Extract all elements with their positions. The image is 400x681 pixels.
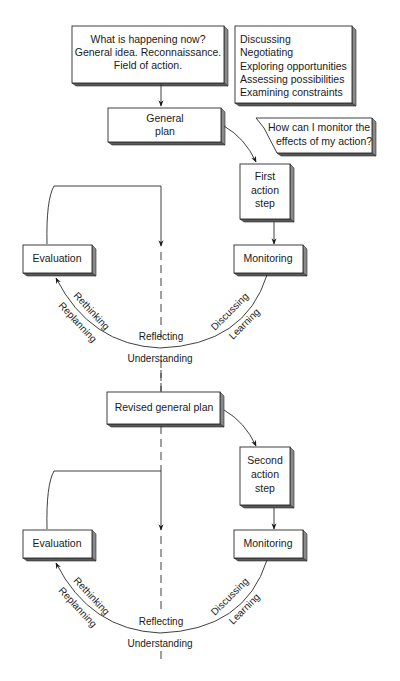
understanding-label-2: Understanding xyxy=(127,638,192,649)
monitoring-1-label: Monitoring xyxy=(243,252,292,264)
question-line-2: effects of my action? xyxy=(276,135,372,147)
arrow-plan-to-action-1 xyxy=(224,126,256,162)
activity-3: Exploring opportunities xyxy=(240,60,347,72)
first-action-line-2: action xyxy=(251,184,279,196)
intro-line-3: Field of action. xyxy=(114,59,182,71)
reflecting-label-1: Reflecting xyxy=(139,331,183,342)
general-plan-line-1: General xyxy=(146,112,183,124)
revised-plan-box: Revised general plan xyxy=(107,392,224,427)
evaluation-box-1: Evaluation xyxy=(23,245,96,276)
question-bubble: How can I monitor the effects of my acti… xyxy=(256,118,376,156)
revised-plan-label: Revised general plan xyxy=(115,401,214,413)
question-line-1: How can I monitor the xyxy=(268,121,370,133)
action-research-diagram: What is happening now? General idea. Rec… xyxy=(0,0,400,681)
understanding-label-1: Understanding xyxy=(127,353,192,364)
general-plan-box: General plan xyxy=(108,108,225,145)
reflecting-label-2: Reflecting xyxy=(139,616,183,627)
evaluation-1-label: Evaluation xyxy=(32,252,81,264)
second-action-step-box: Second action step xyxy=(240,447,294,508)
activity-1: Discussing xyxy=(240,33,291,45)
feedback-line-1 xyxy=(47,186,161,246)
second-action-line-3: step xyxy=(255,482,275,494)
intro-line-1: What is happening now? xyxy=(91,33,206,45)
activity-2: Negotiating xyxy=(240,46,293,58)
first-action-line-1: First xyxy=(255,170,275,182)
activities-box: Discussing Negotiating Exploring opportu… xyxy=(235,26,356,106)
activity-4: Assessing possibilities xyxy=(240,73,344,85)
monitoring-box-2: Monitoring xyxy=(234,530,307,561)
second-action-line-2: action xyxy=(251,468,279,480)
first-action-step-box: First action step xyxy=(240,164,294,222)
evaluation-2-label: Evaluation xyxy=(32,537,81,549)
second-action-line-1: Second xyxy=(247,454,283,466)
feedback-line-2 xyxy=(47,471,161,530)
arrow-plan-to-action-2 xyxy=(224,410,256,446)
evaluation-box-2: Evaluation xyxy=(23,530,96,561)
intro-line-2: General idea. Reconnaissance. xyxy=(75,46,222,58)
first-action-line-3: step xyxy=(255,197,275,209)
monitoring-box-1: Monitoring xyxy=(234,245,307,276)
intro-box: What is happening now? General idea. Rec… xyxy=(72,26,228,86)
monitoring-2-label: Monitoring xyxy=(243,537,292,549)
general-plan-line-2: plan xyxy=(155,125,175,137)
activity-5: Examining constraints xyxy=(240,86,343,98)
